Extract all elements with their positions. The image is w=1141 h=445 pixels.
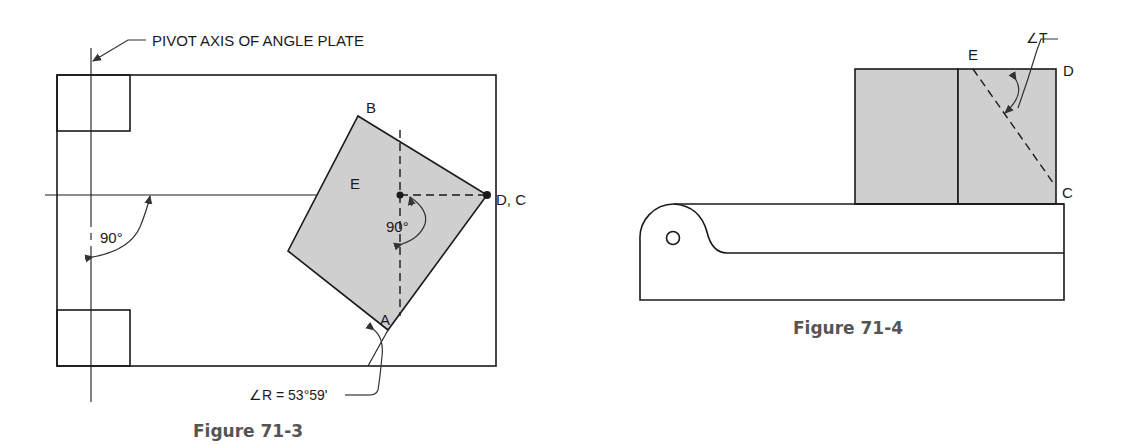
point-e-label-71-4: E — [968, 46, 978, 63]
point-e-label: E — [350, 175, 360, 192]
figure-71-4: E D C ∠T Figure 71-4 — [640, 30, 1074, 338]
figure-71-3: PIVOT AXIS OF ANGLE PLATE 90° 90° B E D,… — [45, 32, 526, 441]
point-e-dot — [397, 192, 404, 199]
top-hinge-block — [57, 75, 130, 131]
point-d-label: D — [1063, 62, 1074, 79]
angle-r-arc — [370, 330, 382, 395]
angle-plate-base — [640, 204, 1064, 300]
point-c-label: C — [1062, 184, 1073, 201]
angle-inner-label: 90° — [386, 218, 409, 235]
pivot-hole-icon — [667, 232, 680, 245]
block-left — [855, 69, 958, 204]
block-right — [958, 69, 1056, 204]
angle-left-label: 90° — [100, 229, 123, 246]
angle-plate-hinge-curve — [674, 204, 1064, 253]
point-b-label: B — [366, 99, 376, 116]
figure-71-4-caption: Figure 71-4 — [793, 318, 903, 338]
angle-r-reference-line — [368, 330, 388, 366]
diagram-canvas: PIVOT AXIS OF ANGLE PLATE 90° 90° B E D,… — [0, 0, 1141, 445]
angle-arc-left — [93, 196, 150, 257]
point-a-label: A — [380, 311, 390, 328]
figure-71-3-caption: Figure 71-3 — [193, 421, 303, 441]
pivot-callout-leader — [93, 40, 146, 61]
pivot-axis-callout: PIVOT AXIS OF ANGLE PLATE — [152, 32, 364, 49]
angle-t-label: ∠T — [1026, 30, 1048, 46]
bottom-hinge-block — [57, 310, 130, 366]
angle-r-label: ∠R = 53°59' — [249, 387, 327, 403]
point-dc-label: D, C — [496, 191, 526, 208]
point-dc-dot — [483, 191, 491, 199]
